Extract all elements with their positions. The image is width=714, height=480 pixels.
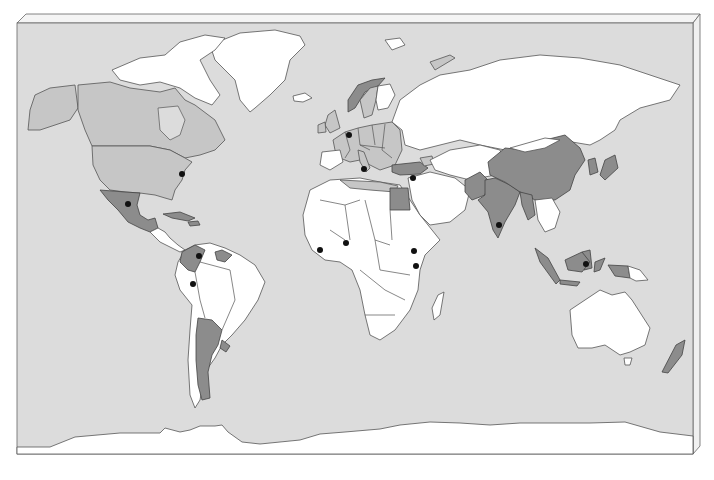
marker-ghana[interactable] [343,240,349,246]
marker-peru[interactable] [190,281,196,287]
marker-colombia[interactable] [196,253,202,259]
hispaniola [188,221,200,226]
marker-brussels[interactable] [346,132,352,138]
egypt [390,188,410,210]
marker-mexico[interactable] [125,201,131,207]
marker-washington[interactable] [179,171,185,177]
marker-kenya[interactable] [413,263,419,269]
board-top-bevel [17,14,700,23]
world-map [0,0,714,480]
marker-rome[interactable] [361,166,367,172]
marker-philippines[interactable] [583,261,589,267]
world-map-board [0,0,714,480]
board-right-bevel [693,14,700,454]
marker-india[interactable] [496,222,502,228]
marker-ethiopia[interactable] [411,248,417,254]
marker-levant[interactable] [410,175,416,181]
marker-sierra-leone[interactable] [317,247,323,253]
